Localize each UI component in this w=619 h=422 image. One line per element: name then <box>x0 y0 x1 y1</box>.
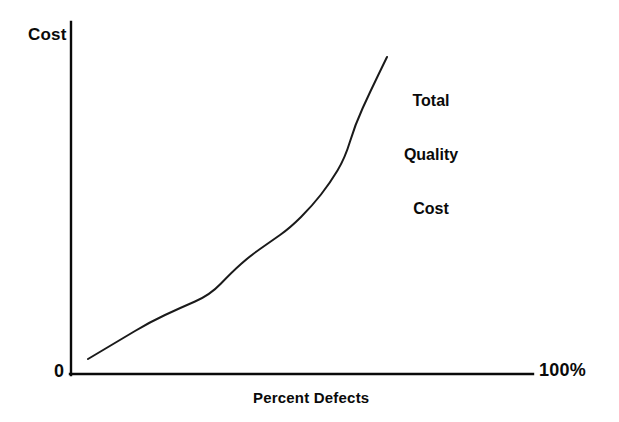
y-axis-title: Cost <box>28 26 67 44</box>
annotation-line-3: Cost <box>396 200 466 218</box>
total-quality-cost-curve <box>88 57 387 359</box>
series-annotation-total-quality-cost: Total Quality Cost <box>396 56 466 254</box>
annotation-line-2: Quality <box>396 146 466 164</box>
x-axis-max-label: 100% <box>539 361 586 380</box>
annotation-line-1: Total <box>396 92 466 110</box>
plot-area <box>0 0 619 422</box>
x-axis-title: Percent Defects <box>253 390 369 406</box>
quality-cost-chart: Cost 0 100% Percent Defects Total Qualit… <box>0 0 619 422</box>
origin-tick-label: 0 <box>54 362 64 381</box>
